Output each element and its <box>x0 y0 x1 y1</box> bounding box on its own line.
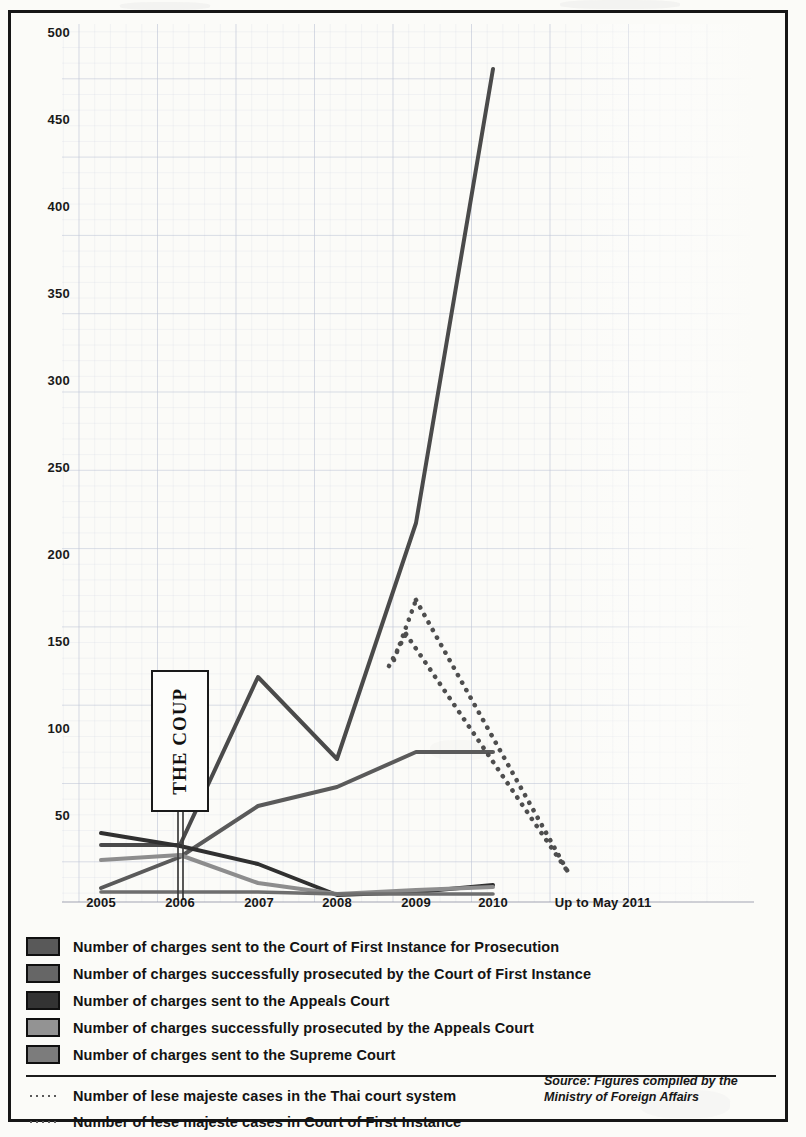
dotted-line-icon <box>26 1120 60 1124</box>
x-tick-2005: 2005 <box>71 895 131 910</box>
y-tick-450: 450 <box>24 112 70 127</box>
legend-swatch <box>26 1018 60 1037</box>
legend-label: Number of lese majeste cases in Court of… <box>73 1114 461 1130</box>
y-tick-500: 500 <box>24 25 70 40</box>
legend-swatch <box>26 1045 60 1064</box>
legend-item-prosecuted-first-instance: Number of charges successfully prosecute… <box>26 960 778 987</box>
dotted-line-icon <box>26 1094 60 1098</box>
x-tick-2010: 2010 <box>463 895 523 910</box>
x-tick-2007: 2007 <box>229 895 289 910</box>
y-tick-200: 200 <box>24 547 70 562</box>
x-tick-2009: 2009 <box>386 895 446 910</box>
legend-swatch <box>26 991 60 1010</box>
y-tick-50: 50 <box>24 808 70 823</box>
legend-item-charges-sent-appeals: Number of charges sent to the Appeals Co… <box>26 987 778 1014</box>
legend-item-lese-majeste-first-instance: Number of lese majeste cases in Court of… <box>26 1109 778 1135</box>
y-tick-250: 250 <box>24 460 70 475</box>
coup-annotation-box: THE COUP <box>151 670 209 812</box>
coup-annotation-label: THE COUP <box>169 688 191 795</box>
y-tick-150: 150 <box>24 634 70 649</box>
y-tick-100: 100 <box>24 721 70 736</box>
source-attribution: Source: Figures compiled by the Ministry… <box>544 1073 794 1105</box>
y-tick-400: 400 <box>24 199 70 214</box>
legend-label: Number of charges successfully prosecute… <box>73 1020 534 1036</box>
legend-item-charges-sent-first-instance: Number of charges sent to the Court of F… <box>26 933 778 960</box>
legend-swatch <box>26 937 60 956</box>
chart-svg <box>0 0 806 920</box>
legend-label: Number of charges sent to the Appeals Co… <box>73 993 389 1009</box>
source-line-1: Source: Figures compiled by the <box>544 1073 794 1089</box>
legend-label: Number of charges sent to the Supreme Co… <box>73 1047 396 1063</box>
x-tick-2008: 2008 <box>307 895 367 910</box>
y-tick-350: 350 <box>24 286 70 301</box>
x-tick-up-to-may-2011: Up to May 2011 <box>528 895 678 910</box>
legend-swatch <box>26 964 60 983</box>
legend-item-charges-sent-supreme: Number of charges sent to the Supreme Co… <box>26 1041 778 1068</box>
y-tick-300: 300 <box>24 373 70 388</box>
series-line-charges-sent-supreme <box>101 892 493 894</box>
legend-label: Number of charges sent to the Court of F… <box>73 939 559 955</box>
legend-item-prosecuted-appeals: Number of charges successfully prosecute… <box>26 1014 778 1041</box>
x-tick-2006: 2006 <box>150 895 210 910</box>
legend-label: Number of lese majeste cases in the Thai… <box>73 1088 456 1104</box>
plot-area: 500 450 400 350 300 250 200 150 100 50 2… <box>0 0 806 920</box>
legend-label: Number of charges successfully prosecute… <box>73 966 591 982</box>
source-line-2: Ministry of Foreign Affairs <box>544 1089 794 1105</box>
chart-page: 500 450 400 350 300 250 200 150 100 50 2… <box>0 0 806 1137</box>
